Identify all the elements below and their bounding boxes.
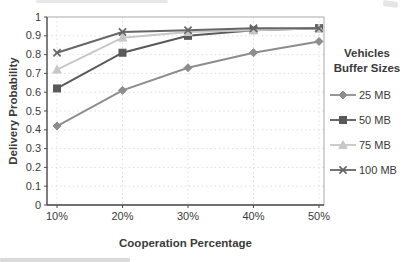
y-tick-label: 0.5 [26, 105, 41, 117]
x-tick-label: 40% [242, 210, 264, 222]
legend-item-50mb: 50 MB [330, 114, 404, 126]
axes [44, 17, 324, 208]
scan-artifact [383, 0, 399, 8]
legend-label-50mb: 50 MB [359, 114, 391, 126]
legend-label-100mb: 100 MB [359, 164, 397, 176]
x-tick-label: 10% [46, 210, 68, 222]
y-tick-label: 0.3 [26, 142, 41, 154]
y-axis-title: Delivery Probability [7, 57, 19, 164]
y-tick-label: 0.4 [26, 123, 41, 135]
legend-item-25mb: 25 MB [330, 89, 404, 101]
y-tick-label: 0.7 [26, 67, 41, 79]
y-tick-label: 0.8 [26, 48, 41, 60]
triangle-marker-icon [330, 140, 356, 150]
legend-label-25mb: 25 MB [359, 89, 391, 101]
legend-title-line1: Vehicles [330, 46, 404, 61]
y-tick-label: 0 [35, 199, 41, 211]
y-tick-label: 1 [35, 11, 41, 23]
square-marker-icon [330, 115, 356, 125]
chart-figure: 00.10.20.30.40.50.60.70.80.9110%20%30%40… [0, 0, 405, 262]
x-axis-title: Cooperation Percentage [47, 237, 324, 249]
legend-item-75mb: 75 MB [330, 139, 404, 151]
diamond-marker-icon [330, 90, 356, 100]
y-tick-label: 0.1 [26, 180, 41, 192]
x-tick-label: 20% [111, 210, 133, 222]
x-marker-icon [330, 165, 356, 175]
legend-label-75mb: 75 MB [359, 139, 391, 151]
legend-item-100mb: 100 MB [330, 164, 404, 176]
x-tick-label: 30% [177, 210, 199, 222]
gridlines [47, 17, 324, 205]
tick-labels: 00.10.20.30.40.50.60.70.80.9110%20%30%40… [26, 11, 331, 223]
legend-title-line2: Buffer Sizes [330, 61, 404, 76]
y-tick-label: 0.9 [26, 29, 41, 41]
plot-area: 00.10.20.30.40.50.60.70.80.9110%20%30%40… [0, 0, 332, 262]
y-tick-label: 0.6 [26, 86, 41, 98]
x-tick-label: 50% [308, 210, 330, 222]
legend: Vehicles Buffer Sizes 25 MB 50 MB 75 MB … [330, 46, 404, 176]
legend-title: Vehicles Buffer Sizes [330, 46, 404, 76]
y-tick-label: 0.2 [26, 161, 41, 173]
